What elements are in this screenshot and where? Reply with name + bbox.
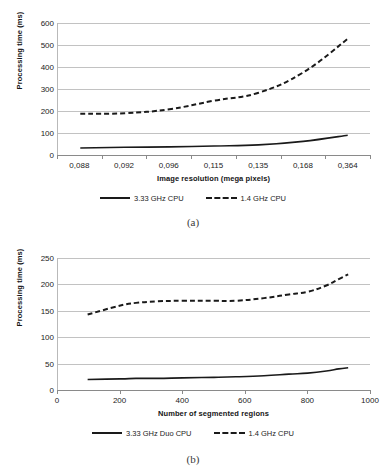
x-axis-tickmarks-b <box>57 390 370 394</box>
subcaption-b: (b) <box>0 453 386 465</box>
x-axis-labels-b: 02004006008001000 <box>57 396 370 410</box>
y-axis-ticks-b: 050100150200250 <box>26 254 54 394</box>
x-axis-title-a: Image resolution (mega pixels) <box>57 174 370 183</box>
y-tick-label: 500 <box>26 41 54 50</box>
x-tickmark <box>102 155 103 159</box>
x-axis-tickmarks-a <box>57 155 370 159</box>
legend-swatch-solid <box>92 432 122 434</box>
subcaption-a: (a) <box>0 216 386 228</box>
legend-b: 3.33 GHz Duo CPU1.4 GHz CPU <box>0 425 386 441</box>
y-tick-label: 0 <box>26 386 54 395</box>
y-tick-label: 400 <box>26 63 54 72</box>
x-tick-label: 0 <box>27 396 87 405</box>
plot-area-b <box>57 258 370 390</box>
x-tickmark <box>281 155 282 159</box>
legend-entry: 1.4 GHz CPU <box>206 194 286 203</box>
y-tick-label: 250 <box>26 254 54 263</box>
x-tickmark <box>120 390 121 394</box>
x-tick-label: 200 <box>90 396 150 405</box>
x-tick-label: 400 <box>152 396 212 405</box>
series-line-0 <box>80 135 347 148</box>
x-tickmark <box>182 390 183 394</box>
legend-entry: 3.33 GHz CPU <box>100 194 184 203</box>
legend-label: 1.4 GHz CPU <box>241 194 286 203</box>
x-tickmark <box>191 155 192 159</box>
y-axis-title-a: Processing time (ms) <box>15 0 24 106</box>
series-line-1 <box>88 274 349 314</box>
x-tickmark <box>307 390 308 394</box>
x-tick-label: 600 <box>215 396 275 405</box>
legend-label: 3.33 GHz CPU <box>134 194 184 203</box>
y-axis-title-b: Processing time (ms) <box>15 233 24 343</box>
figure-b: Processing time (ms) 050100150200250 020… <box>0 235 386 469</box>
x-tickmark <box>236 155 237 159</box>
legend-swatch-dashed <box>206 197 237 199</box>
x-axis-labels-a: 0,0880,0920,0960,1150,1350,1680,364 <box>57 161 370 175</box>
x-tickmark <box>245 390 246 394</box>
y-tick-label: 600 <box>26 19 54 28</box>
x-axis-title-b: Number of segmented regions <box>57 409 370 418</box>
y-tick-label: 200 <box>26 107 54 116</box>
y-tick-label: 100 <box>26 129 54 138</box>
x-tick-label: 800 <box>277 396 337 405</box>
legend-swatch-solid <box>100 197 130 199</box>
y-tick-label: 200 <box>26 280 54 289</box>
legend-label: 3.33 GHz Duo CPU <box>126 429 191 438</box>
x-tickmark <box>146 155 147 159</box>
x-tickmark <box>57 155 58 159</box>
y-tick-label: 300 <box>26 85 54 94</box>
legend-entry: 1.4 GHz CPU <box>214 429 294 438</box>
y-tick-label: 0 <box>26 151 54 160</box>
legend-entry: 3.33 GHz Duo CPU <box>92 429 191 438</box>
figure-a: Processing time (ms) 0100200300400500600… <box>0 0 386 235</box>
plot-area-a <box>57 23 370 155</box>
x-tickmark <box>57 390 58 394</box>
series-line-0 <box>88 368 349 380</box>
x-tickmark <box>370 390 371 394</box>
x-tick-label: 1000 <box>340 396 386 405</box>
x-tickmark <box>370 155 371 159</box>
x-tick-label: 0,364 <box>318 161 378 170</box>
legend-a: 3.33 GHz CPU1.4 GHz CPU <box>0 190 386 206</box>
chart-a-processing-time-vs-resolution: Processing time (ms) 0100200300400500600… <box>0 0 386 190</box>
y-axis-ticks-a: 0100200300400500600 <box>26 19 54 159</box>
legend-swatch-dashed <box>214 432 245 434</box>
chart-b-processing-time-vs-regions: Processing time (ms) 050100150200250 020… <box>0 235 386 425</box>
legend-label: 1.4 GHz CPU <box>249 429 294 438</box>
y-tick-label: 150 <box>26 306 54 315</box>
x-tickmark <box>325 155 326 159</box>
series-line-1 <box>80 39 347 114</box>
y-tick-label: 100 <box>26 333 54 342</box>
y-tick-label: 50 <box>26 359 54 368</box>
